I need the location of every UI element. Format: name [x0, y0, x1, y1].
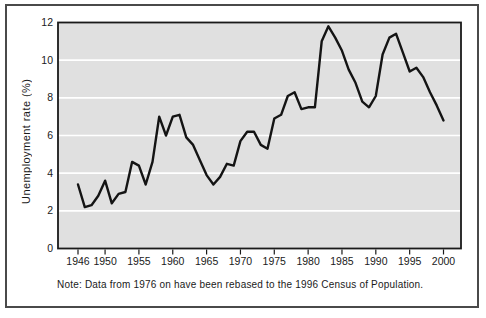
x-tick-label: 1950	[93, 255, 117, 267]
plot-svg: 0246810121946195019551960196519701975198…	[0, 0, 486, 318]
x-tick-label: 1990	[364, 255, 388, 267]
x-tick-label: 1980	[296, 255, 320, 267]
y-axis-title: Unemployment rate (%)	[18, 55, 34, 227]
y-tick-label: 12	[41, 16, 53, 28]
y-tick-label: 10	[41, 54, 53, 66]
y-tick-label: 8	[47, 91, 53, 103]
y-tick-label: 2	[47, 204, 53, 216]
x-tick-label: 1955	[127, 255, 151, 267]
x-tick-label: 1995	[398, 255, 422, 267]
x-tick-label: 2000	[432, 255, 456, 267]
x-tick-label: 1975	[263, 255, 287, 267]
x-tick-label: 1946	[66, 255, 90, 267]
y-tick-label: 6	[47, 129, 53, 141]
x-tick-label: 1970	[229, 255, 253, 267]
x-tick-label: 1985	[330, 255, 354, 267]
figure-note: Note: Data from 1976 on have been rebase…	[57, 279, 423, 290]
y-tick-label: 0	[47, 242, 53, 254]
y-tick-label: 4	[47, 167, 53, 179]
x-tick-label: 1965	[195, 255, 219, 267]
x-tick-label: 1960	[161, 255, 185, 267]
